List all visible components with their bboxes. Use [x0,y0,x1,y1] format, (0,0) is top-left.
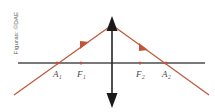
point-label-a1: A [52,69,59,79]
lens-arrow-up-icon [107,16,118,31]
ray-direction-arrow-left-icon [80,41,89,49]
point-sub-a1: 1 [59,74,62,80]
point-label-f2: F [135,69,142,79]
lens-arrow-down-icon [107,93,118,108]
point-label-f1: F [76,69,83,79]
point-sub-a2: 2 [168,74,171,80]
point-marker-a1 [56,62,59,65]
incident-ray-left [14,25,112,95]
ray-diagram-canvas: A 1 F 1 F 2 A 2 [0,0,215,112]
point-label-a2: A [161,69,168,79]
point-marker-a2 [165,62,168,65]
optics-figure: Figuras: ©DAE A 1 F 1 F 2 A 2 [0,0,215,112]
refracted-ray-right [112,25,209,95]
ray-direction-arrow-right-icon [139,43,148,51]
point-marker-f1 [80,62,83,65]
point-sub-f1: 1 [83,74,86,80]
point-marker-f2 [139,62,142,65]
point-sub-f2: 2 [142,74,145,80]
